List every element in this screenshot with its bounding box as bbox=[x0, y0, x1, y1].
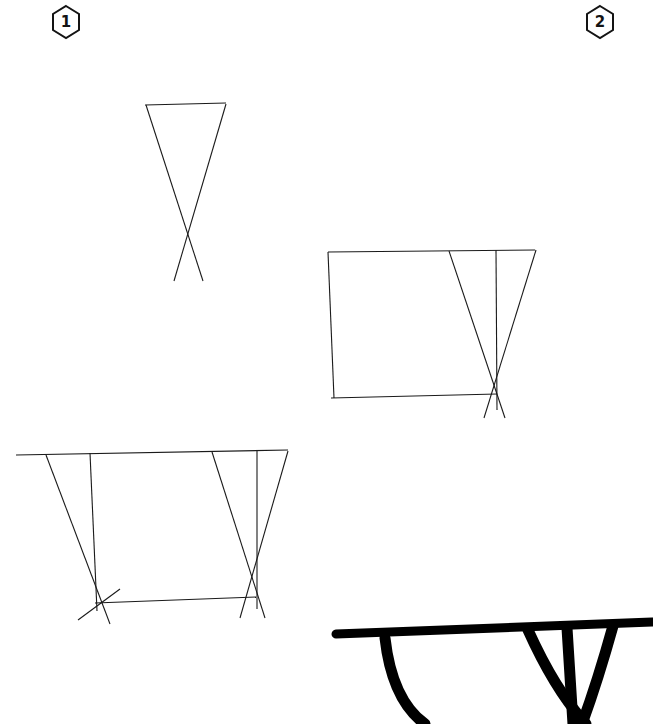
tabletop-slab bbox=[336, 622, 652, 634]
tabletop-bottom-edge bbox=[331, 394, 497, 398]
inked-step-4 bbox=[336, 622, 652, 724]
sketch-strokes-layer bbox=[0, 0, 653, 724]
right-leg-diagonal-outer bbox=[240, 451, 288, 618]
tabletop-top-edge bbox=[16, 450, 288, 455]
left-leg-diagonal-outer bbox=[46, 455, 110, 624]
step-badge-2-label: 2 bbox=[595, 13, 605, 31]
sketch-step-3 bbox=[16, 450, 288, 624]
right-leg-diagonal-inner bbox=[449, 251, 505, 418]
right-leg-diagonal-outer bbox=[484, 250, 536, 418]
left-leg-bold bbox=[385, 638, 425, 724]
tabletop-left-edge bbox=[328, 252, 334, 398]
leg-diagonal-right-to-left bbox=[174, 104, 226, 281]
left-leg-diagonal-inner bbox=[78, 589, 120, 620]
right-leg-center-post bbox=[496, 250, 497, 410]
right-leg-diagonal-inner bbox=[212, 452, 265, 618]
leg-diagonal-left-to-right bbox=[146, 105, 203, 281]
step-badge-1-label: 1 bbox=[61, 13, 71, 31]
stretcher-bar bbox=[95, 597, 256, 603]
left-leg-center-post bbox=[90, 453, 97, 611]
sketch-step-2 bbox=[328, 250, 536, 418]
right-leg-diagonal-outer-bold bbox=[582, 626, 613, 724]
sketch-step-1 bbox=[145, 103, 226, 281]
right-leg-center-post-bold bbox=[567, 628, 573, 724]
tabletop-top-edge bbox=[328, 250, 535, 252]
step-badge-2: 2 bbox=[580, 2, 620, 42]
tabletop-guide-line bbox=[145, 103, 226, 105]
tutorial-canvas: 1 2 bbox=[0, 0, 653, 724]
step-badge-1: 1 bbox=[46, 2, 86, 42]
right-leg-diagonal-inner-bold bbox=[528, 630, 586, 724]
